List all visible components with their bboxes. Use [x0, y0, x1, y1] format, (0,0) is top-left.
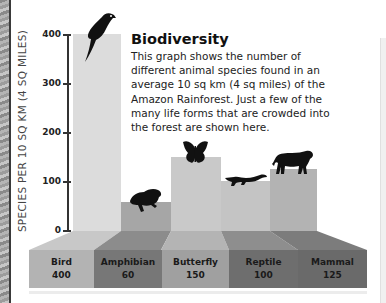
- divider: [9, 0, 11, 303]
- y-tick-400: [63, 34, 71, 36]
- chart-description: This graph shows the number of different…: [131, 49, 346, 134]
- category-value: 125: [323, 269, 342, 282]
- y-tick-100: [63, 181, 71, 183]
- base-shadow: [29, 291, 367, 294]
- page-edge: [380, 38, 386, 303]
- category-butterfly: Butterfly 150: [162, 250, 229, 288]
- decorative-photo-strip: [0, 0, 9, 303]
- category-value: 60: [122, 269, 135, 282]
- y-tick-200: [63, 132, 71, 134]
- category-label: Bird: [51, 256, 72, 269]
- chart-title: Biodiversity: [131, 31, 229, 47]
- category-value: 400: [52, 269, 71, 282]
- y-tick-label: 200: [42, 127, 61, 137]
- category-value: 100: [254, 269, 273, 282]
- bar-butterfly: [171, 157, 221, 231]
- y-tick-label: 300: [42, 78, 61, 88]
- crocodile-icon: [224, 172, 268, 190]
- base-platform-top: [29, 231, 367, 250]
- y-tick-300: [63, 83, 71, 85]
- category-value: 150: [186, 269, 205, 282]
- y-tick-label: 400: [42, 29, 61, 39]
- parrot-icon: [82, 12, 118, 64]
- category-mammal: Mammal 125: [298, 250, 367, 288]
- category-amphibian: Amphibian 60: [94, 250, 162, 288]
- category-bird: Bird 400: [29, 250, 94, 288]
- category-label: Mammal: [311, 256, 354, 269]
- category-label: Butterfly: [173, 256, 218, 269]
- frog-icon: [128, 187, 164, 213]
- y-axis-label: SPECIES PER 10 SQ KM (4 SQ MILES): [16, 30, 28, 232]
- y-tick-label: 100: [42, 176, 61, 186]
- butterfly-icon: [182, 140, 209, 166]
- jaguar-icon: [272, 150, 314, 176]
- category-reptile: Reptile 100: [229, 250, 298, 288]
- category-label: Amphibian: [101, 256, 155, 269]
- bar-mammal: [270, 169, 317, 231]
- category-label: Reptile: [245, 256, 281, 269]
